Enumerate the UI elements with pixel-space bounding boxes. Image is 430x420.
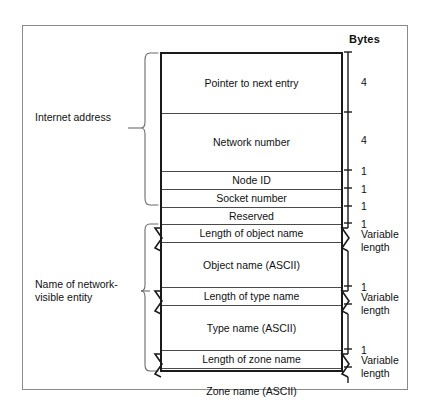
field-row: Node ID (162, 172, 341, 190)
field-size: Variable length (361, 228, 399, 253)
field-name: Object name (ASCII) (203, 259, 300, 271)
field-name: Socket number (216, 192, 287, 204)
field-size-line1: Variable (361, 354, 399, 367)
field-size: 1 (361, 200, 367, 213)
packet-field-table: Pointer to next entry Network number Nod… (160, 52, 343, 372)
field-size-line1: 4 (361, 134, 367, 146)
field-name: Length of zone name (202, 353, 301, 365)
field-size: 1 (361, 165, 367, 178)
field-size-line2: length (361, 367, 399, 380)
field-name: Reserved (229, 210, 274, 222)
field-size: 1 (361, 183, 367, 196)
field-size-line1: 4 (361, 76, 367, 88)
field-name: Zone name (ASCII) (206, 385, 296, 397)
field-row: Pointer to next entry (162, 54, 341, 114)
field-row-variable: Type name (ASCII) (162, 306, 341, 351)
field-size: 4 (361, 76, 367, 89)
field-row: Reserved (162, 208, 341, 225)
field-size: 4 (361, 134, 367, 147)
field-name: Length of object name (200, 227, 304, 239)
field-name: Length of type name (204, 290, 300, 302)
field-size-line1: Variable (361, 291, 399, 304)
field-row-variable: Zone name (ASCII) (162, 369, 341, 414)
field-row-variable: Object name (ASCII) (162, 243, 341, 288)
group-label-nbp-entity-name-line1: Name of network- (35, 278, 150, 291)
field-name: Network number (213, 136, 290, 148)
field-size: Variable length (361, 291, 399, 316)
field-size-line1: 1 (361, 165, 367, 177)
field-size-line2: length (361, 241, 399, 254)
field-size-line1: 1 (361, 200, 367, 212)
group-label-internet-address: Internet address (35, 111, 145, 124)
field-size-line1: Variable (361, 228, 399, 241)
field-row: Length of type name (162, 288, 341, 306)
field-row: Network number (162, 114, 341, 172)
packet-format-diagram: Bytes Internet address Name of network- … (0, 0, 430, 420)
field-name: Pointer to next entry (205, 77, 299, 89)
field-row: Length of zone name (162, 351, 341, 369)
field-name: Node ID (232, 174, 271, 186)
field-size-line2: length (361, 304, 399, 317)
group-label-internet-address-line1: Internet address (35, 111, 111, 123)
field-row: Socket number (162, 190, 341, 208)
group-label-nbp-entity-name: Name of network- visible entity (35, 278, 150, 304)
field-row: Length of object name (162, 225, 341, 243)
field-size: Variable length (361, 354, 399, 379)
field-size-line1: 1 (361, 183, 367, 195)
field-name: Type name (ASCII) (207, 322, 296, 334)
bytes-column-header: Bytes (349, 33, 380, 45)
group-label-nbp-entity-name-line2: visible entity (35, 291, 150, 304)
